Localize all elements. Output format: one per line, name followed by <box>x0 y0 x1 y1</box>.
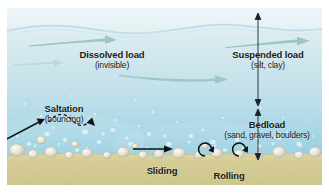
label-dissolved-load: Dissolved load (invisible) <box>62 50 162 70</box>
label-sliding: Sliding <box>135 166 189 177</box>
label-rolling: Rolling <box>202 171 256 182</box>
label-bedload: Bedload (sand, gravel, boulders) <box>203 120 322 140</box>
river-cross-section-scene: Dissolved load (invisible) Suspended loa… <box>7 8 322 185</box>
label-bedload-subtitle: (sand, gravel, boulders) <box>203 131 322 141</box>
label-rolling-title: Rolling <box>202 171 256 182</box>
label-sliding-title: Sliding <box>135 166 189 177</box>
label-saltation-subtitle: (bouncing) <box>25 115 103 125</box>
scene-artwork <box>7 8 322 185</box>
label-suspended-load: Suspended load (silt, clay) <box>212 50 322 70</box>
label-dissolved-load-subtitle: (invisible) <box>62 61 162 71</box>
label-suspended-load-subtitle: (silt, clay) <box>212 61 322 71</box>
label-saltation: Saltation (bouncing) <box>25 104 103 124</box>
sediment-transport-diagram: Dissolved load (invisible) Suspended loa… <box>0 0 329 196</box>
